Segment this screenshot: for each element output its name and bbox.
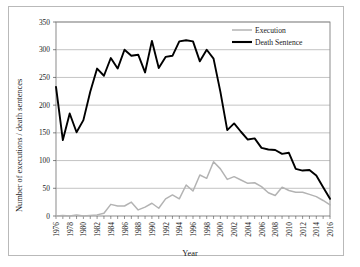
x-axis-tick-label: 2004: [244, 222, 253, 237]
x-axis-tick-label: 1982: [93, 222, 102, 237]
x-axis-tick-label: 1980: [79, 222, 88, 237]
x-axis-tick-label: 1978: [66, 222, 75, 237]
x-axis-tick-label: 1992: [162, 222, 171, 237]
y-axis-tick-label: 0: [46, 212, 50, 221]
x-axis-tick-label: 2002: [230, 222, 239, 237]
figure-container: 350300250200150100500 197619781980198219…: [0, 0, 360, 267]
line-chart: 350300250200150100500 197619781980198219…: [0, 0, 360, 267]
x-axis-title: Year: [182, 249, 198, 258]
y-axis-tick-label: 100: [39, 156, 50, 165]
y-axis-tick-label: 300: [39, 45, 50, 54]
x-axis-tick-label: 1986: [121, 222, 130, 237]
x-axis-tick-label: 1996: [189, 222, 198, 237]
y-axis-tick-label: 250: [39, 73, 50, 82]
x-axis-tick-label: 1984: [107, 222, 116, 237]
x-axis-tick-label: 1998: [203, 222, 212, 237]
y-axis-tick-labels: 350300250200150100500: [39, 18, 50, 221]
x-axis-tick-label: 2014: [312, 222, 321, 237]
y-axis-title: Number of executions / death sentences: [15, 79, 24, 212]
x-axis-tick-labels: 1976197819801982198419861988199019921994…: [52, 222, 335, 237]
legend-label: Execution: [255, 26, 286, 35]
x-axis-tick-label: 2016: [326, 222, 335, 237]
y-axis-tick-label: 150: [39, 128, 50, 137]
y-axis-tick-label: 350: [39, 18, 50, 27]
x-axis-tick-label: 2008: [271, 222, 280, 237]
plot-area-background: [56, 22, 330, 216]
x-axis-tick-label: 1990: [148, 222, 157, 237]
x-axis-tick-label: 2006: [258, 222, 267, 237]
x-axis-ticks: [56, 216, 330, 219]
y-axis-ticks: [53, 22, 56, 216]
x-axis-tick-label: 2012: [299, 222, 308, 237]
x-axis-tick-label: 1994: [175, 222, 184, 237]
x-axis-tick-label: 1988: [134, 222, 143, 237]
legend-label: Death Sentence: [255, 38, 303, 47]
x-axis-tick-label: 1976: [52, 222, 61, 237]
x-axis-tick-label: 2000: [216, 222, 225, 237]
x-axis-tick-label: 2010: [285, 222, 294, 237]
y-axis-tick-label: 200: [39, 101, 50, 110]
y-axis-tick-label: 50: [43, 184, 51, 193]
